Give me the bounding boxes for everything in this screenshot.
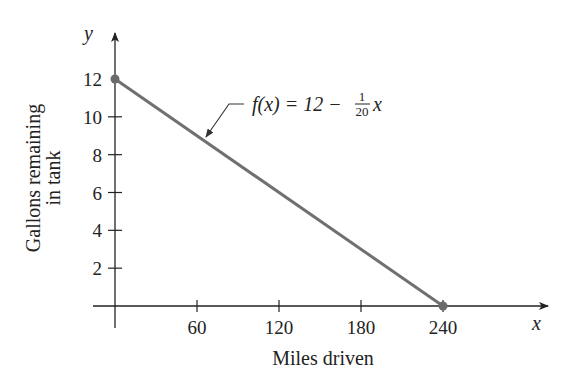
x-tick-label: 120 [265, 317, 294, 338]
formula-variable: x [372, 93, 382, 115]
y-axis-ticks: 24681012 [83, 69, 122, 279]
x-axis-variable: x [531, 312, 541, 334]
x-tick-label: 240 [429, 317, 458, 338]
x-tick-label: 180 [347, 317, 376, 338]
function-annotation: f(x) = 12 − 1 20 x [252, 89, 382, 119]
chart: 60120180240 24681012 x y Miles driven Ga… [0, 0, 566, 387]
plot-area: 60120180240 24681012 x y Miles driven Ga… [0, 0, 566, 387]
y-tick-label: 6 [93, 183, 103, 204]
formula-frac-denominator: 20 [356, 104, 369, 119]
y-axis-title-line-2: in tank [42, 151, 64, 206]
y-axis-variable: y [82, 22, 93, 45]
annotation-leader-arrow [206, 104, 244, 137]
x-tick-label: 60 [188, 317, 207, 338]
y-tick-label: 2 [93, 258, 103, 279]
formula-frac-numerator: 1 [359, 89, 366, 104]
formula-lhs: f(x) = 12 − [252, 93, 342, 116]
endpoint-marker [111, 75, 120, 84]
y-tick-label: 4 [93, 220, 103, 241]
x-axis-title: Miles driven [272, 347, 374, 369]
y-tick-label: 8 [93, 145, 103, 166]
y-tick-label: 12 [83, 69, 102, 90]
y-axis-title: Gallons remaining in tank [22, 104, 64, 252]
svg-text:f(x) = 12 −: f(x) = 12 − [252, 93, 342, 116]
y-tick-label: 10 [83, 107, 102, 128]
endpoint-marker [439, 302, 448, 311]
